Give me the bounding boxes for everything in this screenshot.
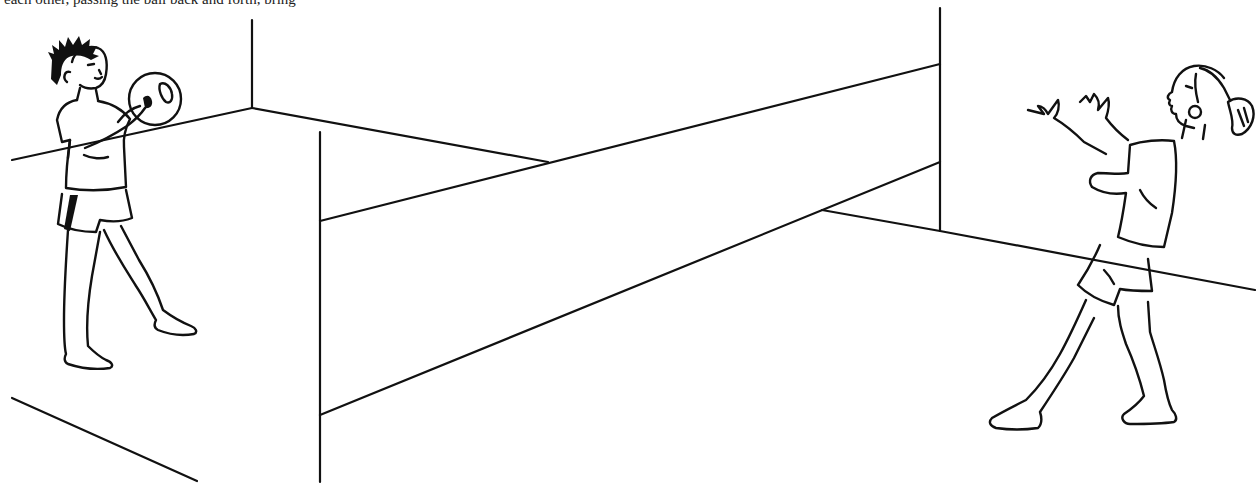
court-lines (12, 8, 1255, 482)
net-bottom-edge (320, 162, 940, 415)
court-illustration (0, 0, 1260, 484)
net-top-edge (320, 64, 940, 221)
boy-figure (48, 36, 196, 369)
